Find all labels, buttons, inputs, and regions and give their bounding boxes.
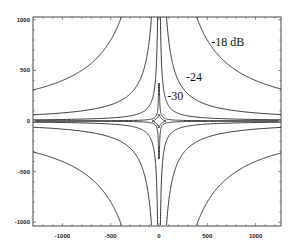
contour-minus-24 xyxy=(167,17,281,115)
y-tick-label: -1000 xyxy=(15,219,31,225)
x-tick-label: 1000 xyxy=(249,233,263,239)
x-axis-labels: -1000-50005001000 xyxy=(55,233,263,239)
center-star-contour xyxy=(36,83,279,159)
contour-label: -24 xyxy=(186,70,202,84)
x-tick-label: -1000 xyxy=(55,233,71,239)
y-tick-label: 0 xyxy=(27,118,31,124)
center-astroid xyxy=(152,114,166,128)
inner-contour xyxy=(36,121,159,159)
contour-minus-18dB xyxy=(197,17,281,89)
inner-contour xyxy=(159,121,278,159)
contour-minus-24 xyxy=(167,127,281,225)
contour-minus-30 xyxy=(33,17,158,120)
y-tick-label: 500 xyxy=(20,67,31,73)
y-tick-label: 1000 xyxy=(17,17,31,23)
x-tick-label: 0 xyxy=(157,233,161,239)
contour-minus-30 xyxy=(33,122,158,225)
contour-label: -30 xyxy=(167,89,183,103)
inner-contour xyxy=(36,83,159,121)
contour-minus-24 xyxy=(33,127,151,225)
y-axis-labels: -1000-50005001000 xyxy=(15,17,31,225)
contour-minus-18dB xyxy=(33,152,121,225)
contour-minus-18dB xyxy=(197,153,281,225)
contour-label: -18 dB xyxy=(211,35,244,49)
contour-chart: -1000-50005001000 -1000-50005001000 -18 … xyxy=(0,0,296,248)
y-tick-label: -500 xyxy=(18,169,31,175)
x-tick-label: 500 xyxy=(202,233,213,239)
x-tick-label: -500 xyxy=(105,233,118,239)
contour-minus-30 xyxy=(160,122,281,225)
contour-minus-24 xyxy=(33,17,151,115)
contour-minus-18dB xyxy=(33,17,121,90)
contour-minus-30 xyxy=(160,17,281,120)
contour-labels: -18 dB-24-30 xyxy=(167,35,244,103)
